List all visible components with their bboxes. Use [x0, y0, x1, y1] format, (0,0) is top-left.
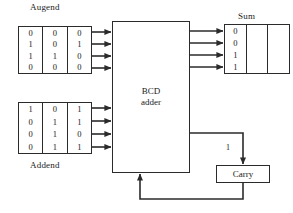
carry-output-wire — [190, 133, 243, 164]
carry-feedback-wire — [140, 174, 243, 199]
addend-input-wires — [92, 108, 111, 147]
bcd-adder-diagram: Augend Addend Sum 011000100100 100001111… — [0, 0, 293, 213]
wiring-layer — [0, 0, 293, 213]
sum-output-wires — [190, 31, 223, 67]
augend-input-wires — [92, 32, 111, 68]
